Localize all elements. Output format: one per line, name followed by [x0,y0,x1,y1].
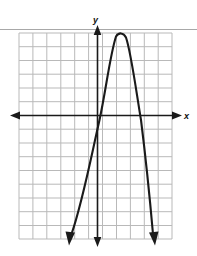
y-axis-bottom-arrowhead [94,237,102,247]
y-axis-label: y [93,16,98,25]
y-axis [94,25,102,247]
coordinate-plane [0,0,197,256]
graph-figure: y x [0,0,197,256]
parabola-path [72,33,154,234]
x-axis-label: x [184,112,189,121]
x-axis [10,112,182,120]
x-axis-right-arrowhead [172,112,182,120]
x-axis-left-arrowhead [10,112,20,120]
